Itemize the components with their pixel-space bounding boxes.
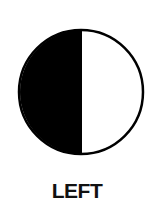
left-filled-half (20, 30, 82, 154)
left-half-circle-figure: LEFT (0, 0, 145, 211)
figure-label: LEFT (0, 180, 145, 202)
